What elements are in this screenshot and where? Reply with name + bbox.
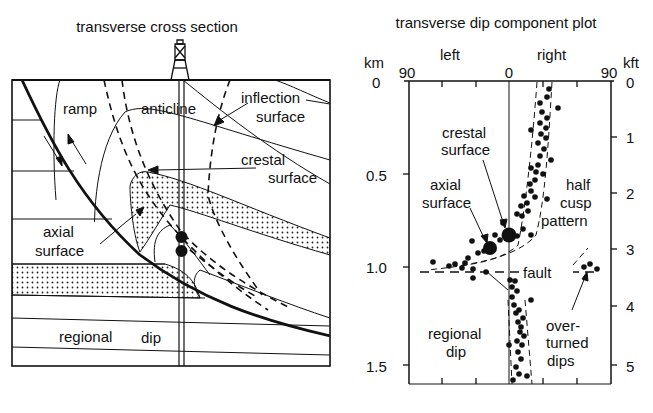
km-tick-0.5: 0.5: [366, 167, 387, 184]
regional-label: regional: [59, 328, 112, 345]
well-bore: [179, 80, 184, 366]
top-tick-90-left: 90: [399, 64, 416, 81]
km-unit-label: km: [364, 54, 384, 71]
top-tick-0: 0: [505, 64, 513, 81]
cross-section-title: transverse cross section: [76, 18, 238, 35]
over-label: over-: [546, 317, 580, 334]
anticline-label: anticline: [141, 100, 196, 117]
axial-point: [176, 245, 188, 257]
dip-label: dip: [446, 343, 466, 360]
crestal-label-2: surface: [441, 141, 490, 158]
figure-canvas: transverse cross section: [0, 0, 653, 413]
half-label: half: [566, 176, 591, 193]
dip-plot-title: transverse dip component plot: [396, 14, 598, 31]
crestal-surface-point: [502, 228, 517, 243]
kft-unit-label: kft: [623, 54, 640, 71]
cross-section-panel: transverse cross section: [12, 18, 330, 366]
drilling-rig-icon: [171, 40, 189, 80]
axial-label-2: surface: [35, 242, 84, 259]
left-direction-label: left: [440, 46, 461, 63]
fault-slip-arrow-up: [68, 134, 86, 164]
axial-label-1: axial: [43, 223, 74, 240]
kft-tick-5: 5: [626, 358, 634, 375]
fault-label: fault: [523, 264, 552, 281]
top-tick-90-right: 90: [601, 64, 618, 81]
crestal-point: [176, 231, 188, 243]
crestal-label-1: crestal: [442, 124, 486, 141]
inflection-label-2: surface: [256, 108, 305, 125]
cusp-label: cusp: [560, 194, 592, 211]
axial-surface-point: [483, 241, 497, 255]
km-tick-1.0: 1.0: [366, 259, 387, 276]
kft-tick-1: 1: [626, 129, 634, 146]
km-tick-0: 0: [372, 74, 380, 91]
turned-label: turned: [546, 334, 589, 351]
dip-plot-panel: transverse dip component plot km left ri…: [364, 14, 640, 384]
regional-label: regional: [428, 325, 481, 342]
kft-tick-2: 2: [626, 185, 634, 202]
right-direction-label: right: [537, 46, 567, 63]
kft-tick-3: 3: [626, 241, 634, 258]
axial-label-2: surface: [422, 194, 471, 211]
pattern-label: pattern: [541, 212, 588, 229]
dip-label: dip: [141, 329, 161, 346]
km-tick-1.5: 1.5: [366, 358, 387, 375]
kft-tick-4: 4: [626, 298, 634, 315]
crestal-label-2: surface: [268, 169, 317, 186]
dips-label: dips: [547, 352, 575, 369]
stippled-bed-footwall: [12, 264, 200, 298]
inflection-label-1: inflection: [241, 89, 300, 106]
kft-tick-0: 0: [626, 74, 634, 91]
ramp-label: ramp: [63, 100, 97, 117]
crestal-label-1: crestal: [241, 151, 285, 168]
axial-label-1: axial: [430, 176, 461, 193]
